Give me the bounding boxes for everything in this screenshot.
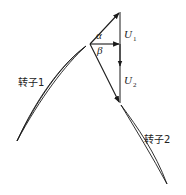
rotor2-label: 转子2 [144, 135, 170, 145]
u1-label: U1 [124, 29, 136, 40]
u2-main: U [124, 74, 132, 86]
rotor1-label: 转子1 [18, 78, 44, 88]
velocity-triangle-diagram [0, 0, 186, 195]
u1-subscript: 1 [133, 35, 137, 43]
vector-to-bottom [90, 44, 119, 102]
beta-label: β [97, 45, 102, 56]
u1-main: U [124, 28, 132, 40]
rotor1-blade-inner [17, 47, 85, 141]
rotor1-blade [17, 46, 86, 141]
vector-to-apex [90, 13, 119, 44]
u2-subscript: 2 [133, 81, 137, 89]
u2-label: U2 [124, 75, 136, 86]
alpha-label: α [96, 30, 102, 41]
